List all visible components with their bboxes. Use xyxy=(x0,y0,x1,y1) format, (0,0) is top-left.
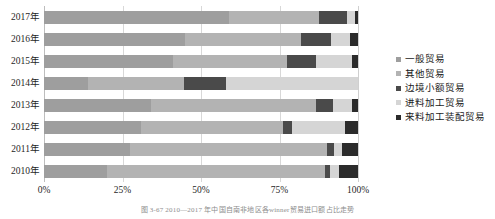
legend-label: 来料加工装配贸易 xyxy=(405,110,485,125)
bar-segment xyxy=(333,99,352,112)
bar-segment xyxy=(316,55,352,68)
bar-segment xyxy=(352,99,358,112)
legend-label: 其他贸易 xyxy=(405,67,445,82)
bar-row xyxy=(44,55,358,68)
bar-row xyxy=(44,143,358,156)
bar-segment xyxy=(173,55,288,68)
bar-segment xyxy=(44,121,141,134)
bar-segment xyxy=(44,55,173,68)
legend-item[interactable]: 一般贸易 xyxy=(396,52,495,67)
bar-segment xyxy=(44,33,185,46)
x-axis-labels: 0%25%50%75%100% xyxy=(44,184,358,198)
legend-swatch-icon xyxy=(396,86,401,91)
y-axis-tick-label: 2010年 xyxy=(0,165,40,178)
bar-segment xyxy=(283,121,292,134)
bar-row xyxy=(44,33,358,46)
bar-segment xyxy=(226,77,358,90)
legend-swatch-icon xyxy=(396,71,401,76)
bar-segment xyxy=(355,11,358,24)
bar-segment xyxy=(151,99,316,112)
legend-item[interactable]: 来料加工装配贸易 xyxy=(396,110,495,125)
bar-segment xyxy=(229,11,318,24)
gridline-100% xyxy=(358,6,359,182)
bar-segment xyxy=(301,33,331,46)
figure-container: 2017年2016年2015年2014年2013年2012年2011年2010年… xyxy=(0,0,495,219)
bar-segment xyxy=(107,165,325,178)
legend-item[interactable]: 边境小额贸易 xyxy=(396,81,495,96)
bar-segment xyxy=(292,121,345,134)
legend-item[interactable]: 其他贸易 xyxy=(396,67,495,82)
bar-segment xyxy=(347,11,355,24)
bar-segment xyxy=(185,33,301,46)
bar-segment xyxy=(44,165,107,178)
x-axis-tick-label: 100% xyxy=(347,184,369,197)
y-axis-tick-label: 2013年 xyxy=(0,99,40,112)
bar-segment xyxy=(287,55,315,68)
bar-segment xyxy=(342,143,358,156)
bar-segment xyxy=(352,55,358,68)
y-axis-tick-label: 2017年 xyxy=(0,11,40,24)
bar-row xyxy=(44,99,358,112)
y-axis-labels: 2017年2016年2015年2014年2013年2012年2011年2010年 xyxy=(0,6,40,182)
bar-segment xyxy=(330,165,339,178)
bar-segment xyxy=(339,165,358,178)
y-axis-tick-label: 2012年 xyxy=(0,121,40,134)
legend-swatch-icon xyxy=(396,100,401,105)
bar-row xyxy=(44,77,358,90)
x-axis-tick-label: 25% xyxy=(114,184,131,197)
bar-segment xyxy=(327,143,335,156)
bar-segment xyxy=(334,143,342,156)
bar-row xyxy=(44,11,358,24)
figure-caption: 图 3-67 2010—2017 年中国自南非地区各winner贸易进口额占比走… xyxy=(0,206,495,215)
bar-segment xyxy=(44,143,130,156)
legend-item[interactable]: 进料加工贸易 xyxy=(396,96,495,111)
y-axis-tick-label: 2016年 xyxy=(0,33,40,46)
legend-swatch-icon xyxy=(396,57,401,62)
legend-label: 进料加工贸易 xyxy=(405,96,465,111)
bar-segment xyxy=(345,121,358,134)
bar-segment xyxy=(350,33,358,46)
bar-segment xyxy=(316,99,333,112)
x-axis-tick-label: 50% xyxy=(192,184,209,197)
bar-row xyxy=(44,121,358,134)
legend-label: 一般贸易 xyxy=(405,52,445,67)
bar-segment xyxy=(130,143,326,156)
bar-segment xyxy=(88,77,184,90)
x-axis-tick-label: 75% xyxy=(271,184,288,197)
y-axis-tick-label: 2014年 xyxy=(0,77,40,90)
bar-segment xyxy=(331,33,350,46)
plot-area xyxy=(44,6,358,182)
y-axis-tick-label: 2015年 xyxy=(0,55,40,68)
bar-segment xyxy=(319,11,347,24)
bar-segment xyxy=(141,121,282,134)
chart-legend: 一般贸易其他贸易边境小额贸易进料加工贸易来料加工装配贸易 xyxy=(396,52,495,125)
bar-row xyxy=(44,165,358,178)
x-axis-tick-label: 0% xyxy=(38,184,51,197)
bar-segment xyxy=(184,77,226,90)
legend-swatch-icon xyxy=(396,115,401,120)
legend-label: 边境小额贸易 xyxy=(405,81,465,96)
y-axis-tick-label: 2011年 xyxy=(0,143,40,156)
bar-segment xyxy=(44,99,151,112)
bar-segment xyxy=(44,11,229,24)
bar-segment xyxy=(44,77,88,90)
